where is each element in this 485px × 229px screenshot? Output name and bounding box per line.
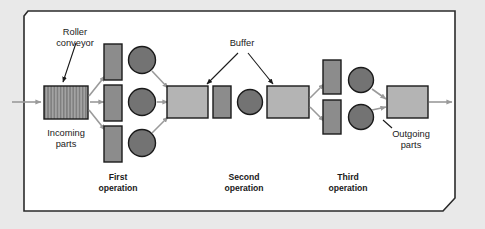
buffer-after-op1 bbox=[167, 86, 208, 118]
robot-op1-top bbox=[129, 47, 156, 74]
outgoing-parts-label-line2: parts bbox=[401, 140, 422, 150]
machine-op1-bottom bbox=[104, 126, 122, 162]
first-operation-label-line1: First bbox=[109, 172, 128, 182]
roller-conveyor-label-line1: Roller bbox=[63, 27, 87, 37]
third-operation-label-line2: operation bbox=[328, 183, 367, 193]
second-operation-label-line2: operation bbox=[224, 183, 263, 193]
robot-op2 bbox=[238, 90, 263, 115]
machine-op1-middle bbox=[104, 85, 122, 121]
robot-op3-bottom bbox=[349, 105, 374, 130]
first-operation-label-line2: operation bbox=[98, 183, 137, 193]
buffer-label: Buffer bbox=[230, 38, 255, 48]
process-flow-diagram: Roller conveyor Incoming parts Buffer Ou… bbox=[0, 0, 485, 229]
buffer-after-op2 bbox=[267, 86, 309, 118]
third-operation-label-line1: Third bbox=[337, 172, 358, 182]
outgoing-parts-label-line1: Outgoing bbox=[392, 129, 430, 139]
figure-container: Roller conveyor Incoming parts Buffer Ou… bbox=[0, 0, 485, 229]
roller-conveyor-shape bbox=[44, 86, 88, 119]
roller-conveyor-label-line2: conveyor bbox=[56, 38, 94, 48]
incoming-parts-label-line1: Incoming bbox=[47, 128, 85, 138]
output-station bbox=[387, 86, 428, 118]
second-operation-label-line1: Second bbox=[228, 172, 259, 182]
machine-op3-bottom bbox=[323, 100, 341, 134]
robot-op1-bottom bbox=[129, 130, 156, 157]
machine-op3-top bbox=[323, 60, 341, 94]
robot-op1-middle bbox=[129, 89, 156, 116]
robot-op3-top bbox=[349, 68, 374, 93]
machine-op2 bbox=[213, 86, 231, 118]
machine-op1-top bbox=[104, 44, 122, 80]
incoming-parts-label-line2: parts bbox=[56, 139, 77, 149]
